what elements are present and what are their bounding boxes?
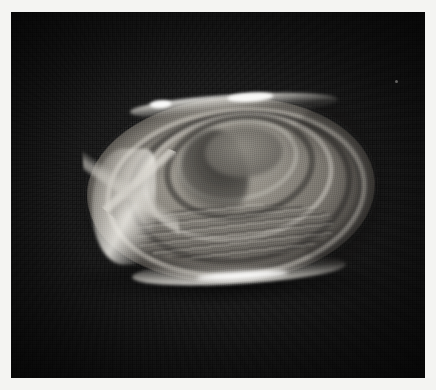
- photographic-plate: [11, 12, 425, 378]
- photograph-figure: [0, 0, 436, 390]
- backdrop-vignette: [11, 12, 425, 378]
